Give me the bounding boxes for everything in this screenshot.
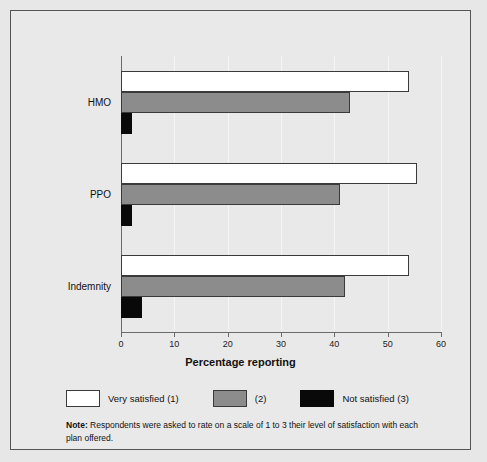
category-label-ppo: PPO (90, 189, 111, 200)
note-text: Respondents were asked to rate on a scal… (66, 420, 418, 443)
legend-item: Very satisfied (1) (66, 390, 179, 407)
bar-indemnity-series2 (121, 276, 345, 297)
bar-hmo-series3 (121, 113, 132, 134)
bar-ppo-series2 (121, 184, 340, 205)
bar-ppo-series1 (121, 163, 417, 184)
x-axis-tick (388, 332, 389, 337)
x-axis-tick-label: 60 (436, 339, 446, 349)
white-swatch (66, 390, 100, 407)
category-label-hmo: HMO (88, 97, 111, 108)
legend-item: Not satisfied (3) (300, 390, 409, 407)
gray-swatch (213, 390, 247, 407)
x-axis-tick (334, 332, 335, 337)
note-prefix: Note: (66, 420, 88, 430)
gridline (388, 56, 389, 332)
black-swatch (300, 390, 334, 407)
bar-ppo-series3 (121, 205, 132, 226)
x-axis-tick-label: 10 (169, 339, 179, 349)
x-axis-tick (281, 332, 282, 337)
x-axis-title: Percentage reporting (11, 356, 470, 368)
legend-item: (2) (213, 390, 267, 407)
bar-indemnity-series1 (121, 255, 409, 276)
x-axis-tick (228, 332, 229, 337)
bar-indemnity-series3 (121, 297, 142, 318)
figure-panel: Percentage reporting Very satisfied (1) … (10, 10, 471, 450)
x-axis-tick (441, 332, 442, 337)
bar-hmo-series1 (121, 71, 409, 92)
legend-item-label: Not satisfied (3) (342, 393, 409, 404)
x-axis-tick-label: 0 (118, 339, 123, 349)
x-axis-tick (121, 332, 122, 337)
gridline (441, 56, 442, 332)
legend-item-label: (2) (255, 393, 267, 404)
x-axis-tick (174, 332, 175, 337)
figure-note: Note: Respondents were asked to rate on … (66, 419, 426, 445)
x-axis-tick-label: 20 (223, 339, 233, 349)
legend-item-label: Very satisfied (1) (108, 393, 179, 404)
x-axis-tick-label: 50 (383, 339, 393, 349)
chart-legend: Very satisfied (1) (2) Not satisfied (3) (66, 390, 409, 407)
x-axis-tick-label: 40 (329, 339, 339, 349)
bar-hmo-series2 (121, 92, 350, 113)
x-axis-tick-label: 30 (276, 339, 286, 349)
category-label-indemnity: Indemnity (68, 281, 111, 292)
